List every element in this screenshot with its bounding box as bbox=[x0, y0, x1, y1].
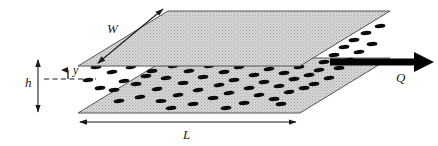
diagram-svg bbox=[0, 0, 438, 146]
particle bbox=[94, 86, 105, 91]
label-flow-rate: Q bbox=[396, 71, 405, 84]
particle bbox=[106, 69, 117, 75]
label-y-coordinate: y bbox=[73, 64, 78, 76]
particle bbox=[338, 44, 349, 49]
figure-canvas: W L h y Q bbox=[0, 0, 438, 146]
particle bbox=[360, 30, 371, 35]
particle bbox=[328, 52, 339, 57]
particle bbox=[366, 42, 377, 47]
label-height: h bbox=[25, 76, 32, 89]
label-length: L bbox=[183, 128, 190, 141]
particle bbox=[348, 38, 359, 43]
particle bbox=[82, 77, 93, 82]
label-width: W bbox=[107, 22, 118, 35]
particle bbox=[353, 49, 364, 54]
particle bbox=[374, 23, 385, 28]
